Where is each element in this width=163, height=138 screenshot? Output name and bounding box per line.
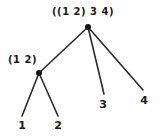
root-node-label: ((1 2) 3 4) [52,7,114,17]
edge-root-to-left-node [39,27,88,73]
leaf-label-4: 4 [140,95,148,106]
leaf-label-2: 2 [54,120,62,131]
tree-edges-layer [0,0,163,138]
left-subtree-label: (1 2) [8,55,37,65]
tree-node-left-subtree [36,70,42,76]
edge-left-node-to-leaf-2 [39,73,58,116]
leaf-label-3: 3 [99,99,107,110]
tree-node-root [85,24,91,30]
tree-diagram-canvas: ((1 2) 3 4) (1 2) 1 2 3 4 [0,0,163,138]
edge-left-node-to-leaf-1 [22,73,39,116]
leaf-label-1: 1 [18,120,26,131]
